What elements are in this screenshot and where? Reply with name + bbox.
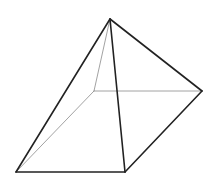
visible-edge-apex-to-front-right	[110, 19, 125, 172]
visible-edge-apex-to-back-right	[110, 19, 202, 91]
pyramid-wireframe	[0, 0, 215, 188]
hidden-edge-back-left-to-front-left	[16, 91, 94, 172]
visible-edges	[16, 19, 202, 172]
visible-edge-front-right-to-back-right	[125, 91, 202, 172]
visible-edge-apex-to-front-left	[16, 19, 110, 172]
hidden-edge-apex-to-back-left	[94, 19, 110, 91]
pyramid-diagram-canvas	[0, 0, 215, 188]
hidden-edges	[16, 19, 202, 172]
